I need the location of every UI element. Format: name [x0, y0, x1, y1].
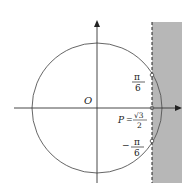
angle-neg-numerator: π — [134, 137, 140, 147]
point-P-name: P — [117, 115, 125, 125]
point-neg-pi-6 — [150, 139, 154, 143]
point-P-denominator: 2 — [137, 121, 142, 130]
y-axis-arrow-icon — [94, 20, 100, 27]
angle-pos-numerator: π — [134, 72, 140, 82]
point-P-numerator: √3 — [134, 111, 144, 120]
point-pi-6 — [150, 73, 154, 77]
angle-neg-sign: − — [122, 140, 130, 150]
point-P — [150, 106, 154, 110]
point-P-equals: = — [126, 115, 133, 124]
angle-pos-denominator: 6 — [135, 83, 141, 93]
origin-label: O — [84, 95, 92, 106]
unit-circle-diagram: O π 6 P = √3 2 − π 6 — [0, 0, 195, 186]
shaded-region — [152, 22, 182, 183]
angle-neg-denominator: 6 — [134, 148, 140, 158]
